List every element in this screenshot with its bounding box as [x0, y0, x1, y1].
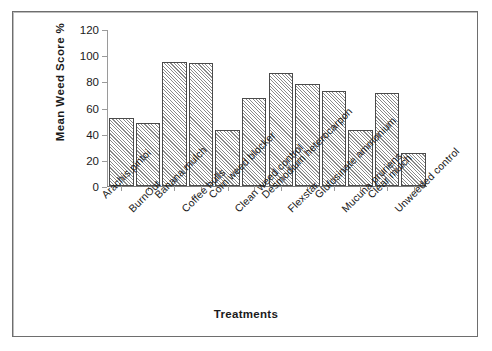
- y-tick-label: 100: [80, 50, 99, 62]
- x-axis-tick-labels: Arachis pintoiBurnOutBanana mulchCoffee …: [107, 188, 427, 306]
- chart-frame: Mean Weed Score % 020406080100120 Arachi…: [12, 11, 478, 337]
- y-tick-mark: [102, 135, 107, 136]
- y-tick-label: 20: [86, 155, 99, 167]
- y-tick-mark: [102, 82, 107, 83]
- bar-series: [108, 30, 427, 186]
- y-tick-label: 120: [80, 24, 99, 36]
- y-tick-mark: [102, 56, 107, 57]
- x-axis-title: Treatments: [13, 308, 479, 320]
- y-tick-mark: [102, 30, 107, 31]
- plot-area: 020406080100120: [107, 30, 427, 187]
- y-tick-label: 40: [86, 129, 99, 141]
- y-tick-label: 60: [86, 103, 99, 115]
- y-tick-label: 80: [86, 76, 99, 88]
- y-axis-title: Mean Weed Score %: [54, 0, 66, 167]
- y-tick-mark: [102, 109, 107, 110]
- y-tick-mark: [102, 161, 107, 162]
